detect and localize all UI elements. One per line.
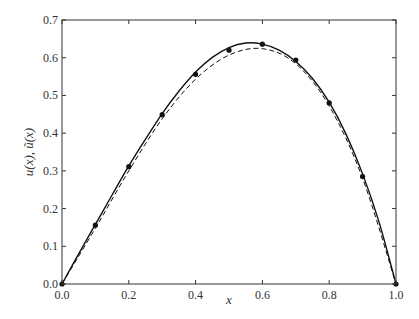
- y-tick-label: 0.6: [43, 51, 58, 65]
- x-axis-label: x: [225, 292, 232, 307]
- data-point-marker: [360, 174, 365, 179]
- x-tick-label: 0.4: [188, 288, 203, 302]
- data-point-marker: [226, 48, 231, 53]
- line-chart: 0.00.20.40.60.81.0 0.00.10.20.30.40.50.6…: [0, 0, 419, 319]
- y-tick-label: 0.2: [43, 202, 58, 216]
- data-point-marker: [260, 42, 265, 47]
- approximate-solution-line: [62, 48, 396, 284]
- data-point-marker: [93, 223, 98, 228]
- y-tick-label: 0.4: [43, 126, 58, 140]
- x-tick-label: 0.8: [322, 288, 337, 302]
- y-tick-label: 0.5: [43, 88, 58, 102]
- data-point-marker: [160, 112, 165, 117]
- plot-area: [59, 42, 398, 287]
- y-axis-ticks: 0.00.10.20.30.40.50.60.7: [43, 13, 396, 291]
- x-tick-label: 0.6: [255, 288, 270, 302]
- y-tick-label: 0.3: [43, 164, 58, 178]
- data-point-marker: [193, 72, 198, 77]
- x-tick-label: 0.2: [121, 288, 136, 302]
- exact-solution-line: [62, 43, 396, 284]
- y-tick-label: 0.7: [43, 13, 58, 27]
- y-tick-label: 0.1: [43, 239, 58, 253]
- data-point-marker: [126, 164, 131, 169]
- x-tick-label: 1.0: [389, 288, 404, 302]
- y-axis-label: u(x), ũ(x): [21, 128, 36, 176]
- y-tick-label: 0.0: [43, 277, 58, 291]
- data-point-marker: [293, 57, 298, 62]
- x-axis-ticks: 0.00.20.40.60.81.0: [55, 20, 404, 302]
- data-point-marker: [327, 100, 332, 105]
- axes-frame: [62, 20, 396, 284]
